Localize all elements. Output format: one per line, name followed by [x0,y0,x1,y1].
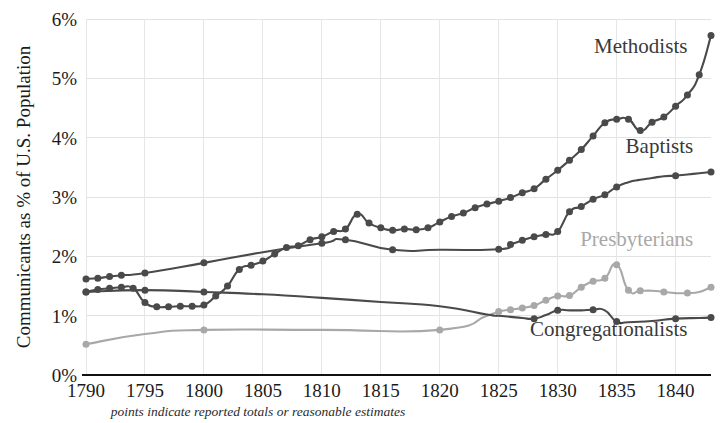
data-point-methodists [625,116,632,123]
data-point-methodists [318,233,325,240]
series-label-congregationalists: Congregationalists [530,317,687,341]
data-point-presbyterians [200,326,207,333]
data-point-methodists [354,211,361,218]
data-point-presbyterians [637,287,644,294]
data-point-methodists [637,127,644,134]
data-point-baptists [106,273,113,280]
data-point-baptists [342,236,349,243]
data-point-congregationalists [554,307,561,314]
data-point-baptists [118,272,125,279]
data-point-presbyterians [625,287,632,294]
data-point-methodists [460,210,467,217]
data-point-presbyterians [495,308,502,315]
data-point-methodists [613,116,620,123]
data-point-methodists [578,146,585,153]
data-point-methodists [106,285,113,292]
data-point-baptists [200,259,207,266]
data-point-congregationalists [590,306,597,313]
x-tick-label: 1810 [303,380,341,401]
data-point-baptists [519,237,526,244]
data-point-baptists [507,241,514,248]
data-point-baptists [141,269,148,276]
data-point-methodists [401,226,408,233]
y-tick-label: 1% [52,306,78,327]
data-point-congregationalists [83,288,90,295]
data-point-methodists [708,32,715,39]
data-point-baptists [531,233,538,240]
data-point-methodists [130,285,137,292]
data-point-methodists [153,303,160,310]
data-point-methodists [259,258,266,265]
data-point-baptists [389,246,396,253]
data-point-methodists [531,185,538,192]
data-point-methodists [649,119,656,126]
data-point-methodists [236,266,243,273]
data-point-presbyterians [578,284,585,291]
x-tick-labels: 1790179518001805181018151820182518301835… [67,380,695,401]
data-point-congregationalists [141,287,148,294]
data-point-methodists [177,303,184,310]
data-point-methodists [495,198,502,205]
x-tick-label: 1805 [244,380,282,401]
x-tick-label: 1825 [480,380,518,401]
data-point-methodists [94,286,101,293]
data-point-baptists [94,275,101,282]
data-point-presbyterians [554,293,561,300]
data-point-methodists [295,242,302,249]
data-point-methodists [342,226,349,233]
data-point-methodists [542,176,549,183]
data-point-methodists [448,213,455,220]
data-point-methodists [660,113,667,120]
data-point-baptists [672,172,679,179]
data-point-methodists [696,71,703,78]
x-tick-label: 1830 [539,380,577,401]
line-chart: 0%1%2%3%4%5%6% 1790179518001805181018151… [0,0,721,423]
chart-root: 0%1%2%3%4%5%6% 1790179518001805181018151… [0,0,721,423]
data-point-methodists [248,262,255,269]
data-point-baptists [601,191,608,198]
data-point-methodists [212,293,219,300]
data-point-methodists [200,301,207,308]
data-point-methodists [519,189,526,196]
data-point-baptists [318,240,325,247]
x-tick-label: 1820 [421,380,459,401]
data-point-methodists [672,103,679,110]
data-point-methodists [413,226,420,233]
data-point-methodists [330,228,337,235]
data-point-baptists [708,169,715,176]
data-point-baptists [590,196,597,203]
data-point-methodists [472,204,479,211]
x-tick-label: 1800 [185,380,223,401]
y-tick-label: 5% [52,68,78,89]
data-point-methodists [684,91,691,98]
data-point-methodists [483,201,490,208]
y-axis-title: Communicants as % of U.S. Population [13,45,34,348]
data-point-presbyterians [601,275,608,282]
data-point-methodists [389,227,396,234]
x-tick-label: 1815 [362,380,400,401]
data-point-methodists [424,224,431,231]
data-point-presbyterians [531,302,538,309]
data-point-presbyterians [660,288,667,295]
data-point-methodists [118,284,125,291]
data-point-presbyterians [613,261,620,268]
y-tick-label: 4% [52,128,78,149]
data-point-methodists [377,224,384,231]
data-point-methodists [307,236,314,243]
x-tick-label: 1835 [598,380,636,401]
data-point-methodists [189,303,196,310]
data-point-baptists [554,228,561,235]
data-point-methodists [271,250,278,257]
series-label-baptists: Baptists [626,134,694,158]
data-point-methodists [554,167,561,174]
y-tick-label: 3% [52,187,78,208]
data-point-presbyterians [519,304,526,311]
data-point-methodists [283,244,290,251]
data-point-presbyterians [684,290,691,297]
data-point-methodists [590,132,597,139]
data-point-presbyterians [436,326,443,333]
data-point-methodists [507,194,514,201]
data-point-baptists [83,275,90,282]
series-label-presbyterians: Presbyterians [580,227,693,251]
data-point-congregationalists [708,314,715,321]
